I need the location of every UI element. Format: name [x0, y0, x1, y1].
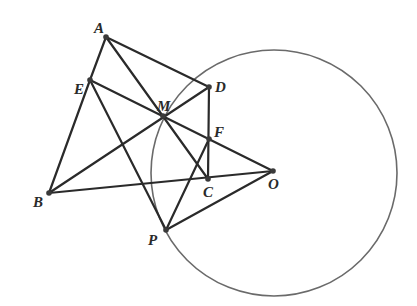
point-b: [46, 190, 52, 196]
label-f: F: [213, 124, 224, 140]
segment-bd: [49, 87, 209, 193]
geometry-diagram: AEDMFCOBP: [0, 0, 417, 306]
segment-ae: [90, 37, 106, 80]
point-o: [270, 168, 276, 174]
label-b: B: [32, 194, 43, 210]
segment-ep: [90, 80, 166, 230]
point-e: [87, 77, 93, 83]
label-d: D: [214, 79, 226, 95]
point-p: [163, 227, 169, 233]
point-m: [160, 113, 166, 119]
label-e: E: [73, 81, 84, 97]
point-a: [103, 34, 109, 40]
label-p: P: [148, 232, 158, 248]
point-f: [206, 136, 212, 142]
segment-eo: [90, 80, 273, 171]
label-c: C: [203, 184, 214, 200]
label-o: O: [268, 176, 279, 192]
segment-dc: [208, 87, 209, 179]
segment-ad: [106, 37, 209, 87]
label-m: M: [156, 98, 171, 114]
label-a: A: [93, 20, 104, 36]
point-c: [205, 176, 211, 182]
point-d: [206, 84, 212, 90]
segments: [49, 37, 273, 230]
